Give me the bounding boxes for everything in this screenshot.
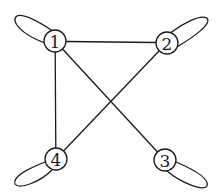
edges xyxy=(55,42,159,153)
edge-1-4 xyxy=(55,52,56,148)
node-3: 3 xyxy=(154,149,176,171)
edge-1-2 xyxy=(66,42,156,43)
node-1: 1 xyxy=(44,30,66,52)
node-2-label: 2 xyxy=(162,34,173,54)
node-1-label: 1 xyxy=(50,32,61,52)
node-4-label: 4 xyxy=(51,150,62,170)
node-3-label: 3 xyxy=(160,151,171,171)
node-2: 2 xyxy=(156,32,178,54)
graph-diagram: 1 2 3 4 xyxy=(0,0,223,196)
self-loop-4 xyxy=(15,162,52,186)
node-4: 4 xyxy=(45,148,67,170)
